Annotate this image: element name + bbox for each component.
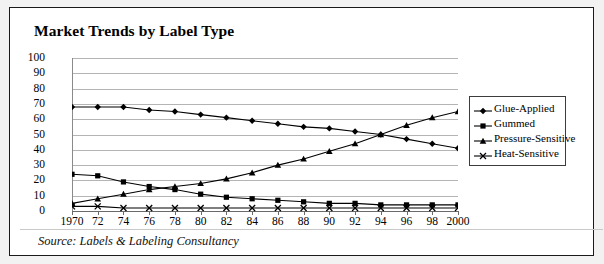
- data-point-diamond-marker: [403, 136, 409, 142]
- figure-container: Market Trends by Label Type Glue-Applied…: [0, 0, 604, 264]
- y-axis-tick-label: 90: [11, 67, 45, 79]
- series-line-heat-sensitive: [72, 206, 458, 208]
- diamond-marker: [473, 103, 493, 115]
- series-line-pressure-sensitive: [72, 112, 458, 204]
- legend-item-label: Heat-Sensitive: [493, 148, 559, 159]
- y-axis-tick-label: 0: [11, 205, 45, 217]
- data-point-diamond-marker: [429, 140, 435, 146]
- legend-item[interactable]: Pressure-Sensitive: [473, 131, 565, 146]
- series-lines: [72, 58, 458, 212]
- source-note: Source: Labels & Labeling Consultancy: [38, 234, 239, 249]
- data-point-square-marker: [301, 199, 306, 204]
- series-line-gummed: [72, 174, 458, 205]
- data-point-diamond-marker: [72, 104, 75, 110]
- x-axis-tick-label: 2000: [436, 216, 480, 228]
- data-point-square-marker: [250, 196, 255, 201]
- data-point-diamond-marker: [95, 104, 101, 110]
- data-point-diamond-marker: [172, 108, 178, 114]
- data-point-square-marker: [224, 195, 229, 200]
- data-point-square-marker: [275, 198, 280, 203]
- data-point-triangle-marker: [455, 108, 458, 114]
- legend-item[interactable]: Gummed: [473, 116, 565, 131]
- data-point-diamond-marker: [275, 121, 281, 127]
- y-axis-tick-label: 50: [11, 129, 45, 141]
- legend-item-label: Gummed: [493, 118, 535, 129]
- data-point-diamond-marker: [455, 145, 458, 151]
- chart-legend: Glue-AppliedGummedPressure-SensitiveHeat…: [469, 96, 566, 166]
- data-point-diamond-marker: [120, 104, 126, 110]
- square-marker: [473, 118, 493, 130]
- legend-item[interactable]: Heat-Sensitive: [473, 146, 565, 161]
- data-point-square-marker: [327, 201, 332, 206]
- data-point-diamond-marker: [326, 125, 332, 131]
- y-axis-tick-label: 70: [11, 98, 45, 110]
- data-point-square-marker: [352, 201, 357, 206]
- data-point-diamond-marker: [249, 118, 255, 124]
- legend-item[interactable]: Glue-Applied: [473, 101, 565, 116]
- cross-marker: [473, 148, 493, 160]
- data-point-square-marker: [121, 179, 126, 184]
- legend-item-label: Glue-Applied: [493, 103, 554, 114]
- data-point-diamond-marker: [223, 114, 229, 120]
- data-point-diamond-marker: [300, 124, 306, 130]
- y-axis-tick-label: 100: [11, 52, 45, 64]
- data-point-diamond-marker: [352, 128, 358, 134]
- page-title: Market Trends by Label Type: [34, 22, 234, 40]
- chart-frame: Market Trends by Label Type Glue-Applied…: [9, 7, 594, 256]
- footer-divider: [20, 229, 603, 230]
- y-axis-tick-label: 60: [11, 113, 45, 125]
- data-point-diamond-marker: [197, 111, 203, 117]
- y-axis-tick-label: 10: [11, 190, 45, 202]
- data-point-square-marker: [72, 172, 75, 177]
- y-axis-tick-label: 40: [11, 144, 45, 156]
- y-axis-tick-label: 30: [11, 159, 45, 171]
- y-axis-tick-label: 80: [11, 83, 45, 95]
- data-point-square-marker: [95, 173, 100, 178]
- data-point-square-marker: [198, 192, 203, 197]
- triangle-marker: [473, 133, 493, 145]
- y-axis-tick-label: 20: [11, 174, 45, 186]
- legend-item-label: Pressure-Sensitive: [493, 133, 575, 144]
- data-point-diamond-marker: [146, 107, 152, 113]
